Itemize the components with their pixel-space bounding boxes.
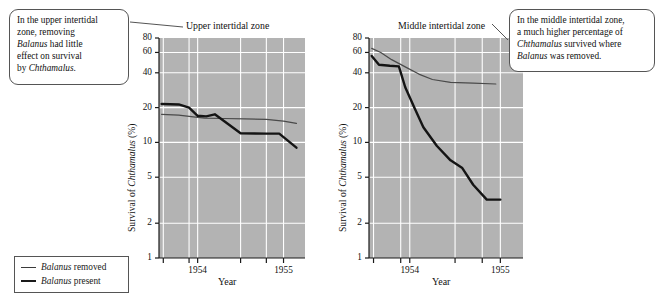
callout-middle-line: a much higher percentage of <box>517 27 647 39</box>
genus-name: Balanus <box>517 51 547 61</box>
callout-upper-intertidal: In the upper intertidalzone, removingBal… <box>9 9 129 85</box>
x-axis-title: Year <box>432 276 450 287</box>
callout-middle-intertidal: In the middle intertidal zone,a much hig… <box>509 9 655 72</box>
callout-middle-line: Balanus was removed. <box>517 51 647 63</box>
y-tick-label: 80 <box>329 32 362 42</box>
legend-item-balanus-removed: Balanus removed <box>21 260 122 274</box>
legend-item-label: Balanus present <box>41 274 101 288</box>
callout-leader-line <box>130 22 183 27</box>
legend-line-swatch <box>21 267 36 268</box>
legend-item-label: Balanus removed <box>41 260 106 274</box>
panel-title: Upper intertidal zone <box>186 20 269 31</box>
genus-name: Balanus <box>17 39 47 49</box>
figure-container: In the upper intertidalzone, removingBal… <box>0 0 662 307</box>
legend-line-swatch <box>21 280 36 282</box>
callout-upper-line: zone, removing <box>17 27 121 39</box>
legend-item-balanus-present: Balanus present <box>21 274 122 288</box>
x-tick-label: 1954 <box>390 265 430 275</box>
y-tick-label: 20 <box>119 102 152 112</box>
genus-name: Chthamalus <box>126 140 137 186</box>
callout-upper-line: Balanus had little <box>17 39 121 51</box>
callout-leader-line <box>492 24 508 40</box>
x-tick-label: 1955 <box>480 265 520 275</box>
x-axis-title: Year <box>218 276 236 287</box>
y-tick-label: 40 <box>119 67 152 77</box>
callout-upper-line: effect on survival <box>17 51 121 63</box>
y-tick-label: 80 <box>119 32 152 42</box>
genus-name: Chthamalus <box>337 140 348 186</box>
y-tick-label: 20 <box>329 102 362 112</box>
y-tick-label: 1 <box>119 252 152 262</box>
callout-upper-line: by Chthamalus. <box>17 63 121 75</box>
genus-name: Balanus <box>41 262 71 272</box>
legend: Balanus removedBalanus present <box>14 256 129 293</box>
callout-middle-line: Chthamalus survived where <box>517 39 647 51</box>
genus-name: Chthamalus <box>29 63 74 73</box>
x-tick-label: 1954 <box>178 265 218 275</box>
y-tick-label: 40 <box>329 67 362 77</box>
callout-middle-line: In the middle intertidal zone, <box>517 15 647 27</box>
genus-name: Balanus <box>41 276 71 286</box>
callout-upper-line: In the upper intertidal <box>17 15 121 27</box>
chart-panel-middle <box>365 24 523 263</box>
y-tick-label: 1 <box>329 252 362 262</box>
y-axis-title: Survival of Chthamalus (%) <box>337 124 348 232</box>
y-tick-label: 60 <box>119 46 152 56</box>
y-tick-label: 60 <box>329 46 362 56</box>
y-axis-title: Survival of Chthamalus (%) <box>126 124 137 232</box>
genus-name: Chthamalus <box>517 39 562 49</box>
x-tick-label: 1955 <box>264 265 304 275</box>
chart-panel-upper <box>130 22 305 263</box>
panel-title: Middle intertidal zone <box>398 20 485 31</box>
